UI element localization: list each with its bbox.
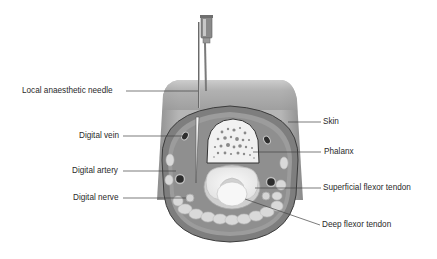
label-phalanx: Phalanx [324,147,354,157]
digital-nerve-left [186,194,194,202]
deep-flexor-tendon [217,182,247,206]
label-local-anaesthetic-needle: Local anaesthetic needle [22,86,113,96]
label-digital-artery: Digital artery [72,166,118,176]
label-superficial-flexor-tendon: Superficial flexor tendon [323,183,411,193]
digital-nerve-right [262,192,270,200]
label-deep-flexor-tendon: Deep flexor tendon [322,220,391,230]
label-skin: Skin [323,117,339,127]
label-digital-nerve: Digital nerve [73,193,119,203]
digital-artery-right [267,178,276,187]
digital-artery-left [176,175,185,184]
cross-section [162,106,298,242]
needle-hub [201,17,212,38]
label-digital-vein: Digital vein [79,131,119,141]
phalanx-bone [207,119,259,163]
flexor-tendons [204,165,260,209]
